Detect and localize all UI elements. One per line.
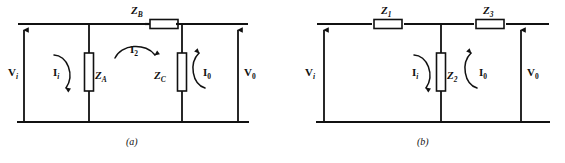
label-voltage-vi-b: Vi [305, 67, 315, 81]
label-voltage-v0-a: V0 [244, 67, 256, 81]
diagram-b-impedance-z2-body [437, 53, 446, 91]
label-current-ii-a: Ii [53, 67, 59, 81]
diagram-b-mesh-current-i0-arc [465, 53, 477, 88]
label-voltage-vi-a: Vi [8, 67, 18, 81]
label-impedance-zc: ZC [154, 70, 166, 84]
caption-diagram-b: (b) [417, 136, 429, 147]
diagram-b-impedance-z3-body [476, 20, 504, 29]
label-current-i2-a: I2 [130, 44, 138, 58]
diagram-b-group [316, 20, 550, 123]
circuit-schematic-canvas [0, 0, 565, 163]
label-voltage-v0-b: V0 [527, 67, 539, 81]
diagram-a-impedance-zb-body [150, 20, 178, 29]
label-impedance-zb: ZB [131, 5, 143, 19]
label-impedance-z1: Z1 [381, 5, 391, 19]
label-impedance-z2: Z2 [447, 70, 457, 84]
label-current-ii-b: Ii [412, 67, 418, 81]
circuit-figure: ZB ZA ZC Vi V0 Ii I2 I0 (a) Z1 Z3 Z2 Vi … [0, 0, 565, 163]
label-current-i0-b: I0 [479, 67, 487, 81]
diagram-a-impedance-zc-body [178, 53, 187, 91]
diagram-a-impedance-za-body [85, 53, 94, 91]
label-impedance-z3: Z3 [483, 5, 493, 19]
label-impedance-za: ZA [95, 70, 107, 84]
caption-diagram-a: (a) [126, 136, 138, 147]
diagram-a-group [17, 20, 249, 123]
label-current-i0-a: I0 [203, 67, 211, 81]
diagram-b-impedance-z1-body [374, 20, 402, 29]
